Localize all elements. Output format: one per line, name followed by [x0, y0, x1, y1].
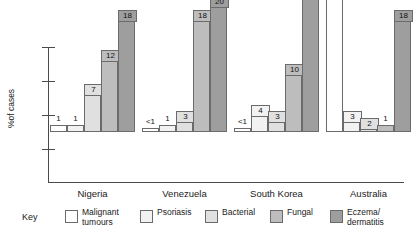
bar-value: 1	[72, 114, 78, 124]
bar-venezuela-eczema-dermatitis[interactable]: 20	[210, 0, 227, 132]
category-label-australia: Australia	[326, 188, 411, 199]
legend-swatch-psoriasis	[140, 210, 153, 223]
bar-nigeria-psoriasis[interactable]: 1	[67, 125, 84, 132]
legend-swatch-eczema-dermatitis	[330, 210, 343, 223]
legend-item-malignant-tumours[interactable]: Malignant tumours	[65, 208, 119, 227]
bar-value: 18	[394, 10, 413, 22]
legend: Key Malignant tumours Psoriasis Bacteria…	[0, 206, 408, 236]
bar-south-korea-psoriasis[interactable]: 4	[251, 105, 268, 132]
category-label-south-korea: South Korea	[234, 188, 319, 199]
legend-swatch-bacterial	[205, 210, 218, 223]
legend-swatch-fungal	[270, 210, 283, 223]
x-axis-baseline	[48, 182, 404, 183]
bar-group-venezuela: <1 1 3 18 20	[142, 0, 227, 132]
bar-venezuela-fungal[interactable]: 18	[193, 10, 210, 132]
bar-group-nigeria: 1 1 7 12 18	[50, 0, 135, 132]
legend-label: Bacterial	[222, 208, 255, 218]
bar-venezuela-psoriasis[interactable]: 1	[159, 125, 176, 132]
legend-label: Malignant tumours	[82, 208, 119, 227]
bar-venezuela-malignant-tumours[interactable]: <1	[142, 128, 159, 132]
bar-value: <1	[145, 117, 156, 127]
bar-south-korea-malignant-tumours[interactable]: <1	[234, 128, 251, 132]
legend-item-eczema-dermatitis[interactable]: Eczema/ dermatitis	[330, 208, 384, 227]
category-label-nigeria: Nigeria	[50, 188, 135, 199]
bar-value: 1	[164, 114, 170, 124]
bar-australia-bacterial[interactable]: 2	[360, 118, 377, 132]
legend-title: Key	[22, 212, 38, 222]
bar-nigeria-bacterial[interactable]: 7	[84, 84, 101, 132]
bar-value: 1	[382, 114, 388, 124]
bar-australia-fungal[interactable]: 1	[377, 125, 394, 132]
bar-group-south-korea: <1 4 3 10 24	[234, 0, 319, 132]
legend-label: Eczema/ dermatitis	[347, 208, 384, 227]
legend-item-bacterial[interactable]: Bacterial	[205, 208, 255, 223]
bar-venezuela-bacterial[interactable]: 3	[176, 111, 193, 132]
legend-swatch-malignant-tumours	[65, 210, 78, 223]
bar-value: 18	[118, 10, 137, 22]
legend-item-psoriasis[interactable]: Psoriasis	[140, 208, 191, 223]
category-label-venezuela: Venezuela	[142, 188, 227, 199]
bar-south-korea-fungal[interactable]: 10	[285, 64, 302, 132]
bar-value: 20	[210, 0, 229, 8]
plot-area: 20 10 %of cases 1 1 7 12 18 <1	[0, 0, 408, 186]
legend-label: Psoriasis	[157, 208, 191, 218]
bar-australia-eczema-dermatitis[interactable]: 18	[394, 10, 411, 132]
bar-south-korea-bacterial[interactable]: 3	[268, 111, 285, 132]
bar-group-australia: 40 3 2 1 18	[326, 0, 411, 132]
bar-value: 1	[55, 114, 61, 124]
legend-label: Fungal	[287, 208, 313, 218]
bar-australia-malignant-tumours[interactable]: 40	[326, 0, 343, 132]
bar-australia-psoriasis[interactable]: 3	[343, 111, 360, 132]
y-axis-title: %of cases	[7, 79, 16, 139]
bar-nigeria-fungal[interactable]: 12	[101, 50, 118, 132]
y-tick-5	[42, 149, 55, 150]
bar-south-korea-eczema-dermatitis[interactable]: 24	[302, 0, 319, 132]
bar-value: <1	[237, 117, 248, 127]
legend-item-fungal[interactable]: Fungal	[270, 208, 313, 223]
bar-nigeria-malignant-tumours[interactable]: 1	[50, 125, 67, 132]
bar-nigeria-eczema-dermatitis[interactable]: 18	[118, 10, 135, 132]
